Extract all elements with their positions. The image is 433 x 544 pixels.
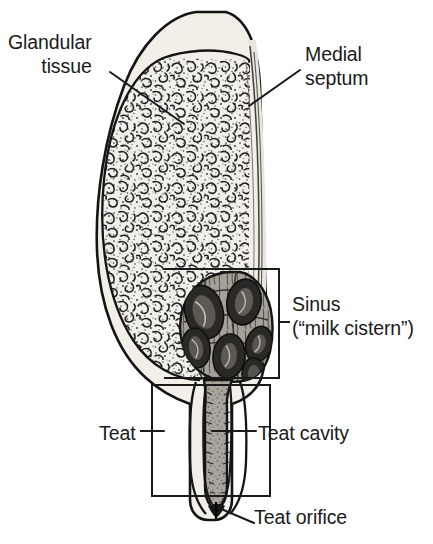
label-medial-septum-line1: Medial <box>305 43 362 65</box>
label-teat-orifice: Teat orifice <box>254 505 347 529</box>
label-glandular-tissue: Glandular tissue <box>8 30 92 78</box>
label-glandular-tissue-line1: Glandular <box>8 31 92 53</box>
label-glandular-tissue-line2: tissue <box>8 54 92 78</box>
label-sinus-line2: (“milk cistern”) <box>292 316 414 340</box>
label-medial-septum: Medial septum <box>305 42 368 90</box>
label-sinus-line1: Sinus <box>292 293 340 315</box>
label-teat-cavity: Teat cavity <box>258 421 349 445</box>
label-teat: Teat <box>99 421 135 445</box>
label-sinus: Sinus (“milk cistern”) <box>292 292 414 340</box>
label-medial-septum-line2: septum <box>305 66 368 90</box>
